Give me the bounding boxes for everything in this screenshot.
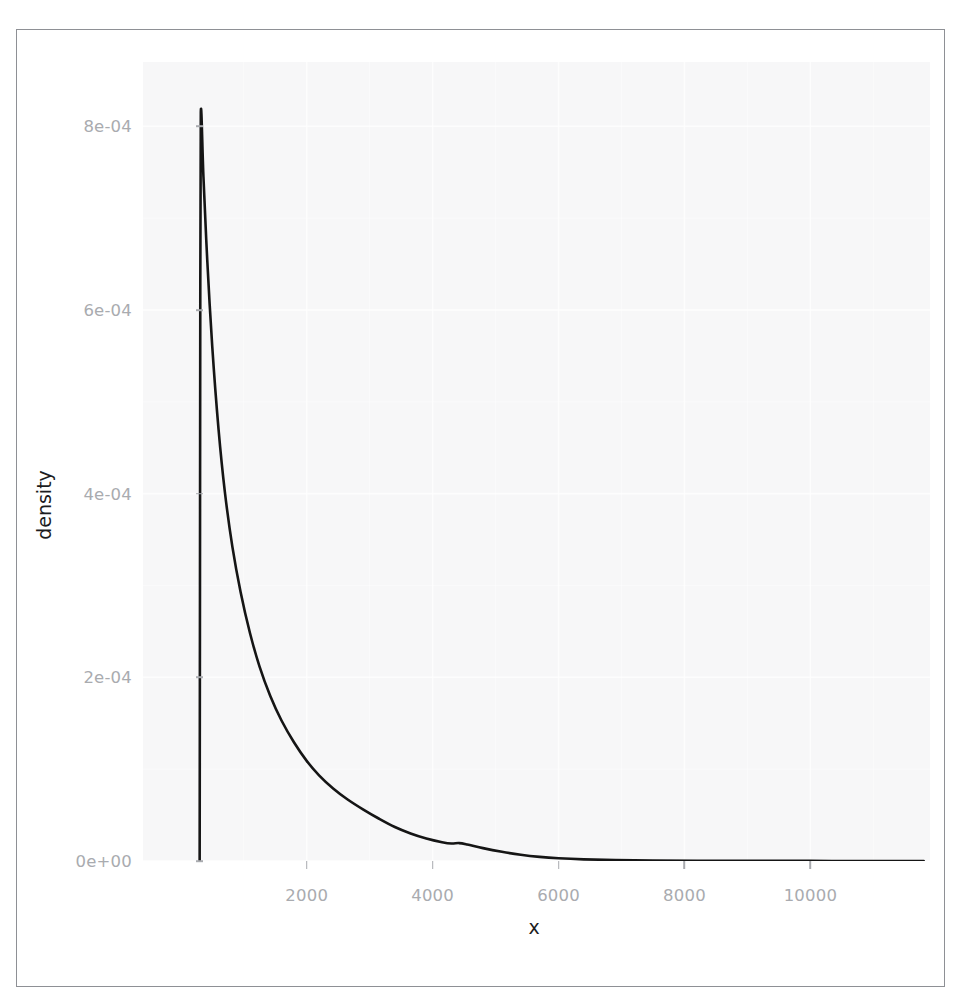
y-tick-label: 8e-04	[83, 117, 132, 136]
x-tick-mark	[810, 861, 812, 869]
panel-gridlines	[143, 62, 930, 861]
x-tick-label: 6000	[537, 886, 580, 905]
x-tick-mark	[432, 861, 434, 869]
y-axis: 0e+002e-044e-046e-048e-04	[60, 0, 132, 1005]
x-tick-label: 4000	[411, 886, 454, 905]
y-tick-mark	[196, 125, 203, 127]
y-tick-mark	[196, 860, 203, 862]
y-tick-label: 2e-04	[83, 668, 132, 687]
x-tick-label: 8000	[663, 886, 706, 905]
y-tick-label: 4e-04	[83, 484, 132, 503]
x-tick-mark	[684, 861, 686, 869]
y-tick-mark	[196, 309, 203, 311]
x-axis-title: x	[528, 916, 539, 938]
density-plot: 0e+002e-044e-046e-048e-04 density 200040…	[0, 0, 963, 1005]
plot-panel	[143, 62, 930, 861]
y-tick-mark	[196, 677, 203, 679]
y-tick-mark	[196, 493, 203, 495]
y-axis-title: density	[33, 470, 55, 540]
y-tick-label: 0e+00	[76, 852, 132, 871]
x-tick-label: 10000	[784, 886, 838, 905]
x-tick-mark	[558, 861, 560, 869]
y-tick-label: 6e-04	[83, 300, 132, 319]
x-tick-mark	[306, 861, 308, 869]
x-tick-label: 2000	[285, 886, 328, 905]
